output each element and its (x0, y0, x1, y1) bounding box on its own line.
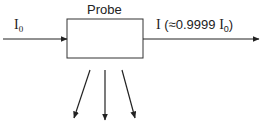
output-intensity-label: I (≈0.9999 I0) (156, 18, 233, 34)
output-approx-suffix: ) (229, 17, 233, 32)
input-subscript: 0 (19, 24, 24, 34)
scatter-arrow-left (74, 70, 90, 118)
probe-box (67, 19, 143, 58)
scatter-arrow-right (122, 70, 135, 118)
probe-label: Probe (87, 3, 122, 16)
output-approx-prefix: (≈0.9999 (161, 17, 219, 32)
input-intensity-label: I0 (14, 18, 23, 34)
